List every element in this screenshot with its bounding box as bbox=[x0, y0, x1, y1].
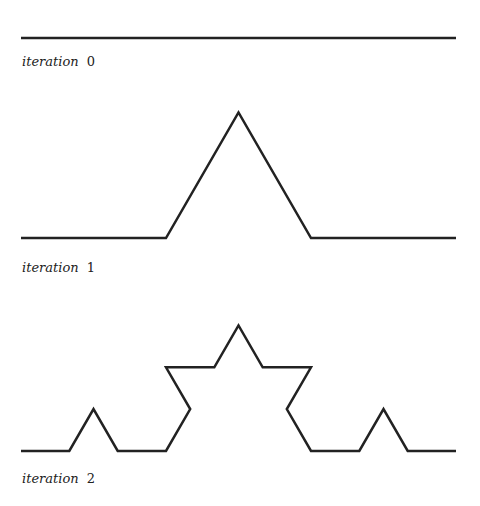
iteration-word: iteration bbox=[22, 260, 79, 275]
iteration-1-label: iteration1 bbox=[22, 261, 95, 274]
iteration-number: 0 bbox=[87, 54, 95, 69]
koch-curve-iteration-2 bbox=[21, 325, 456, 451]
iteration-number: 1 bbox=[87, 260, 95, 275]
iteration-word: iteration bbox=[22, 471, 79, 486]
iteration-word: iteration bbox=[22, 54, 79, 69]
iteration-0-label: iteration0 bbox=[22, 55, 95, 68]
koch-figure bbox=[0, 0, 480, 506]
iteration-number: 2 bbox=[87, 471, 95, 486]
koch-curve-iteration-1 bbox=[21, 112, 456, 238]
iteration-2-label: iteration2 bbox=[22, 472, 95, 485]
